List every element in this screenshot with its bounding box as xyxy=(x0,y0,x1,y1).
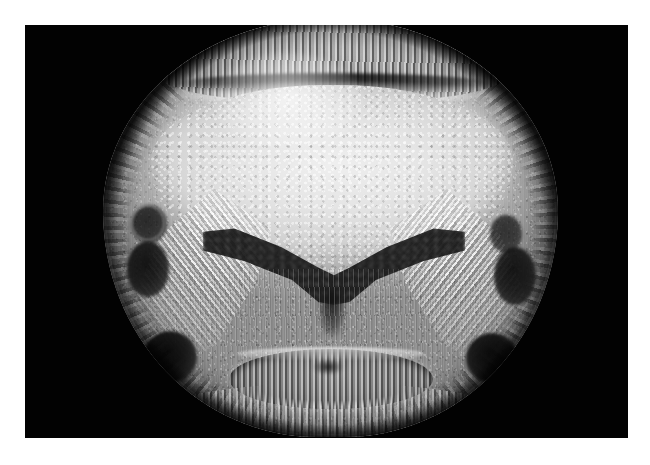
bottom-rind xyxy=(159,383,503,437)
dark-bundle-right-lower xyxy=(466,333,518,383)
central-core-bright-cloud xyxy=(213,53,363,149)
lower-organ-dark-spot xyxy=(313,359,343,375)
black-image-plate xyxy=(25,25,628,438)
figure-root: Transverse cross-section micrograph xyxy=(0,0,650,465)
dark-bundle-right-middle xyxy=(494,247,536,305)
dark-bundle-left-upper-ring xyxy=(133,207,163,239)
dark-bundle-left-lower xyxy=(143,331,197,383)
dark-bundle-left-middle xyxy=(127,241,169,297)
specimen-cross-section xyxy=(103,25,558,437)
